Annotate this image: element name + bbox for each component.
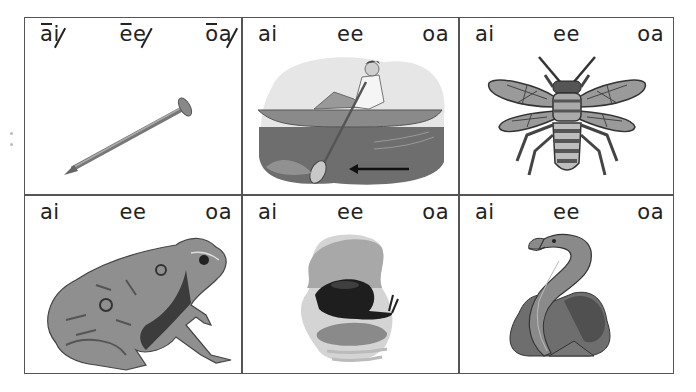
choice-oa[interactable]: oa [422,21,449,47]
choice-oa[interactable]: oa [422,199,449,225]
choice-oa[interactable]: oa [205,199,232,225]
macron-mark [206,23,217,25]
nail-picture [64,87,204,177]
macron-mark [41,23,52,25]
choice-ai[interactable]: ai [40,21,60,47]
choice-ai[interactable]: ai [258,21,278,47]
cell-eel: ai ee oa [459,195,674,374]
eel-picture [499,231,629,361]
vowel-team-worksheet: ai ee oa ai ee oa [24,17,674,374]
boat-picture [254,47,449,187]
choice-oa[interactable]: oa [637,199,664,225]
toad-picture [36,225,236,373]
choice-ai[interactable]: ai [475,199,495,225]
choice-ee[interactable]: ee [553,21,580,47]
snail-picture [297,233,407,368]
cell-nail: ai ee oa [24,17,242,195]
choice-oa[interactable]: oa [637,21,664,47]
choice-oa[interactable]: oa [205,21,232,47]
bee-picture [487,55,647,185]
cell-bee: ai ee oa [459,17,674,195]
cell-boat: ai ee oa [242,17,459,195]
choice-ee[interactable]: ee [120,21,147,47]
choice-ee[interactable]: ee [337,199,364,225]
cell-toad: ai ee oa [24,195,242,374]
macron-mark [121,23,132,25]
choice-ee[interactable]: ee [553,199,580,225]
choice-ai[interactable]: ai [40,199,60,225]
choice-ee[interactable]: ee [120,199,147,225]
choice-ai[interactable]: ai [258,199,278,225]
cell-snail: ai ee oa [242,195,459,374]
choice-ai[interactable]: ai [475,21,495,47]
choice-ee[interactable]: ee [337,21,364,47]
